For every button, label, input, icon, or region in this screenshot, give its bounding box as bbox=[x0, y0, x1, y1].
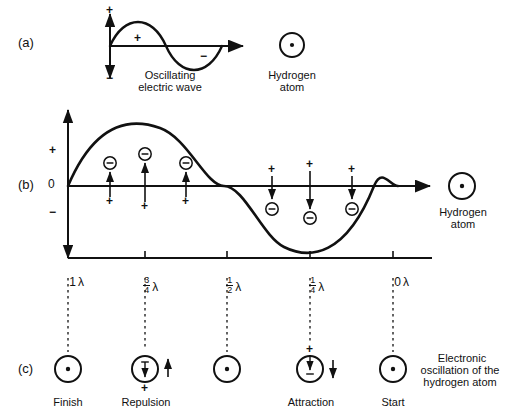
dipole-3 bbox=[180, 157, 192, 197]
atom-attraction-outer-charge: + bbox=[306, 343, 313, 357]
scale-label-1lambda-unit: λ bbox=[78, 275, 84, 289]
panel-a-atom-caption-line1: Hydrogen bbox=[252, 69, 332, 82]
dipole-5-top-charge: + bbox=[306, 158, 313, 172]
dipole-2-bottom-charge: + bbox=[141, 200, 148, 214]
panel-c-tag: (c) bbox=[18, 362, 33, 377]
panel-b-tag: (b) bbox=[18, 178, 34, 193]
scale-label-half-fraction: 12 bbox=[226, 276, 233, 295]
scale-label-half-unit: λ bbox=[235, 280, 241, 294]
dipole-3-bottom-charge: + bbox=[182, 195, 189, 209]
dipole-6-top-charge: + bbox=[348, 163, 355, 177]
scale-label-1lambda: 1λ bbox=[56, 262, 84, 303]
dipole-4 bbox=[266, 176, 278, 215]
panel-b-yaxis-plus-label: + bbox=[49, 144, 56, 158]
scale-label-1lambda-text: 1 bbox=[69, 275, 76, 289]
atom-repulsion-outer-charge: + bbox=[141, 382, 148, 396]
dipole-2 bbox=[139, 148, 151, 202]
panel-b-yaxis-minus-label: − bbox=[49, 206, 56, 220]
panel-c-right-caption-line1: Electronic bbox=[418, 352, 505, 365]
scale-label-quarter-fraction: 14 bbox=[309, 276, 316, 295]
scale-label-three-quarter-lambda: 34λ bbox=[130, 262, 158, 309]
atom-attraction-label: Attraction bbox=[278, 396, 344, 409]
panel-a-crest-sign: + bbox=[134, 32, 141, 46]
panel-a-wave-caption-line2: electric wave bbox=[125, 81, 215, 94]
scale-label-zero-lambda: 0λ bbox=[381, 262, 409, 303]
panel-a-axis-plus-label: + bbox=[106, 4, 113, 18]
atom-repulsion-label: Repulsion bbox=[113, 396, 179, 409]
scale-label-quarter-unit: λ bbox=[318, 280, 324, 294]
scale-label-three-quarter-fraction: 34 bbox=[143, 276, 150, 295]
dipole-4-top-charge: + bbox=[268, 163, 275, 177]
panel-b-atom-caption-line1: Hydrogen bbox=[432, 206, 494, 219]
panel-c-right-caption-line3: hydrogen atom bbox=[412, 376, 505, 389]
scale-label-half-lambda: 12λ bbox=[213, 262, 241, 309]
atom-finish-symbol bbox=[55, 356, 81, 382]
panel-b-yaxis-zero-label: 0 bbox=[48, 178, 55, 192]
scale-label-zero-text: 0 bbox=[394, 275, 401, 289]
dipole-6 bbox=[346, 176, 358, 215]
scale-label-quarter-lambda: 14λ bbox=[296, 262, 324, 309]
atom-middle-symbol bbox=[214, 356, 240, 382]
dipole-1 bbox=[104, 157, 116, 197]
panel-a-atom-caption-line2: atom bbox=[252, 81, 332, 94]
panel-c-right-caption-line2: oscillation of the bbox=[412, 364, 505, 377]
panel-b-sine-wave bbox=[68, 124, 398, 253]
panel-b-atom-caption-line2: atom bbox=[432, 218, 494, 231]
atom-attraction-symbol bbox=[297, 355, 333, 382]
panel-a-trough-sign: − bbox=[200, 50, 207, 64]
atom-repulsion-symbol bbox=[132, 356, 168, 382]
panel-b-graphics bbox=[68, 110, 475, 258]
panel-a-axis-minus-label: − bbox=[106, 72, 113, 86]
scale-label-three-quarter-unit: λ bbox=[152, 280, 158, 294]
scale-label-zero-unit: λ bbox=[403, 275, 409, 289]
dipole-1-bottom-charge: + bbox=[106, 195, 113, 209]
physics-figure: (a) + − + − Oscillating electric wave Hy… bbox=[0, 0, 505, 418]
panel-b-hydrogen-atom-symbol bbox=[449, 173, 475, 199]
atom-start-label: Start bbox=[365, 396, 421, 409]
panel-a-wave-caption-line1: Oscillating bbox=[125, 69, 215, 82]
panel-a-tag: (a) bbox=[18, 36, 34, 51]
atom-finish-label: Finish bbox=[38, 396, 98, 409]
atom-start-symbol bbox=[380, 356, 406, 382]
panel-a-hydrogen-atom-symbol bbox=[280, 33, 304, 57]
panel-c-graphics bbox=[55, 355, 406, 382]
dipole-5 bbox=[304, 171, 316, 224]
